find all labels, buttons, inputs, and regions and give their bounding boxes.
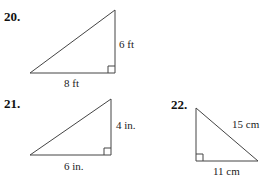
problem-number-21: 21. [4, 97, 20, 110]
horizontal-leg-label-20: 8 ft [64, 78, 79, 89]
triangle-21 [30, 99, 111, 155]
horizontal-leg-label-21: 6 in. [64, 161, 84, 172]
right-triangle-exercises: 20. 6 ft 8 ft 21. 4 in. 6 in. 22. 15 cm … [0, 0, 275, 186]
right-angle-marker-22 [196, 154, 203, 161]
triangle-22 [196, 108, 258, 161]
vertical-leg-label-20: 6 ft [119, 39, 134, 50]
right-angle-marker-20 [108, 66, 115, 73]
triangles-drawing [0, 0, 275, 186]
right-angle-marker-21 [104, 148, 111, 155]
triangle-20 [30, 10, 115, 73]
vertical-leg-label-21: 4 in. [116, 120, 136, 131]
hypotenuse-label-22: 15 cm [232, 119, 259, 130]
problem-number-22: 22. [171, 98, 187, 111]
horizontal-leg-label-22: 11 cm [213, 166, 240, 177]
problem-number-20: 20. [4, 10, 20, 23]
